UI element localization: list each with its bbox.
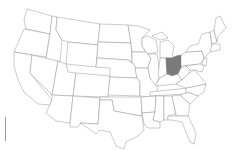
- state-maine: [214, 16, 226, 42]
- state-kansas: [108, 77, 140, 96]
- scale-bar-line: [5, 117, 6, 141]
- state-florida: [168, 116, 196, 144]
- state-arkansas: [141, 96, 156, 113]
- state-montana: [56, 17, 100, 45]
- state-colorado: [73, 73, 110, 97]
- state-north-dakota: [98, 24, 131, 43]
- state-wyoming: [66, 42, 98, 67]
- us-states-map: [0, 0, 233, 150]
- state-massachusetts-ct-ri: [210, 44, 220, 52]
- state-pennsylvania: [181, 51, 204, 66]
- state-new-mexico: [70, 96, 100, 127]
